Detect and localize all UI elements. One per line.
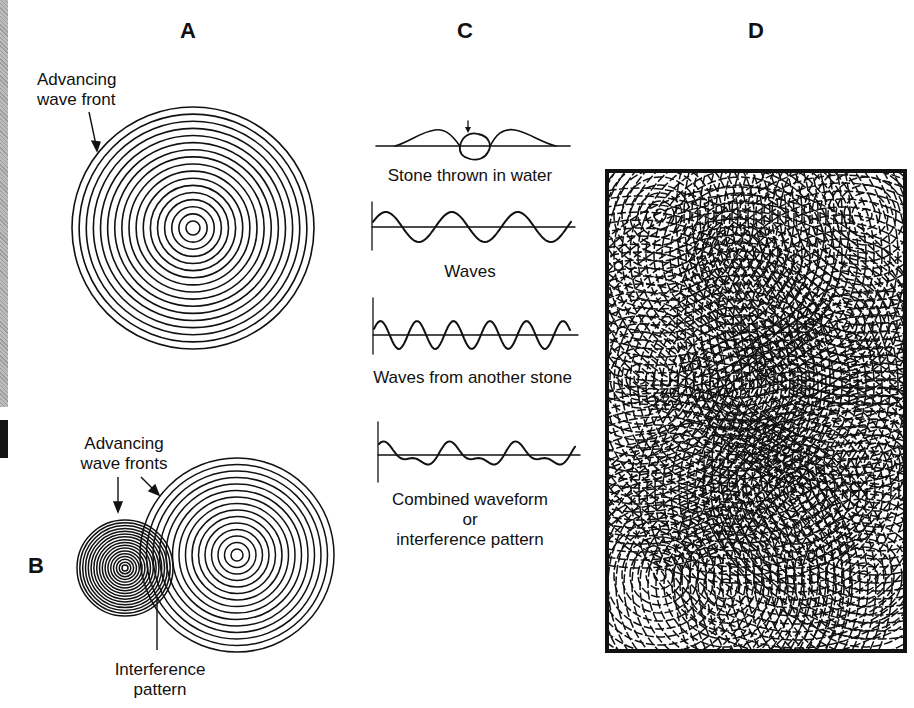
multi-source-interference-pattern-d: [0, 0, 914, 708]
